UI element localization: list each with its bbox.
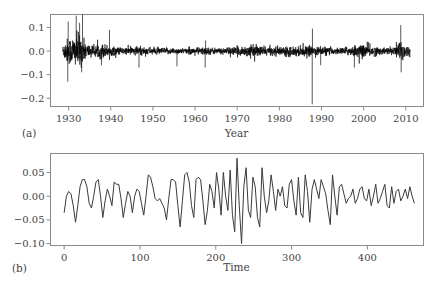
- panel-b-x-axis: 0100200300400: [61, 246, 377, 263]
- panel-b-series-line: [64, 158, 414, 243]
- y-tick-label: −0.1: [20, 69, 44, 80]
- x-tick-label: 1990: [309, 113, 334, 124]
- x-tick-label: 2010: [393, 113, 418, 124]
- panel-a-returns-chart: 0.10.0−0.1−0.2 1930194019501960197019801…: [20, 15, 423, 140]
- panel-b-x-axis-label: Time: [223, 261, 250, 273]
- y-tick-label: −0.10: [14, 238, 45, 249]
- x-tick-label: 1940: [98, 113, 123, 124]
- panel-b-y-axis: 0.050.00−0.05−0.10: [14, 167, 51, 249]
- y-tick-label: 0.1: [29, 22, 45, 33]
- panel-a-y-axis: 0.10.0−0.1−0.2: [20, 22, 50, 104]
- panel-a-x-axis: 193019401950196019701980199020002010: [56, 107, 419, 124]
- y-tick-label: 0.00: [22, 191, 44, 202]
- y-tick-label: −0.05: [14, 214, 45, 225]
- y-tick-label: 0.0: [29, 46, 45, 57]
- panel-b-tag: (b): [12, 262, 27, 274]
- x-tick-label: 100: [130, 252, 149, 263]
- x-tick-label: 1930: [56, 113, 81, 124]
- x-tick-label: 1950: [140, 113, 165, 124]
- panel-a-frame: [51, 15, 424, 107]
- panel-a-series-line: [63, 30, 410, 67]
- y-tick-label: −0.2: [20, 93, 44, 104]
- x-tick-label: 0: [61, 252, 67, 263]
- x-tick-label: 2000: [351, 113, 376, 124]
- x-tick-label: 1970: [224, 113, 249, 124]
- panel-a-tag: (a): [22, 127, 36, 139]
- x-tick-label: 400: [358, 252, 377, 263]
- figure: 0.10.0−0.1−0.2 1930194019501960197019801…: [0, 0, 442, 288]
- x-tick-label: 300: [282, 252, 301, 263]
- panel-a-x-axis-label: Year: [224, 127, 249, 139]
- panel-b-time-series-chart: 0.050.00−0.05−0.10 0100200300400 (b) Tim…: [12, 154, 424, 275]
- x-tick-label: 1960: [182, 113, 207, 124]
- panel-a-spikes: [68, 15, 401, 105]
- x-tick-label: 1980: [267, 113, 292, 124]
- y-tick-label: 0.05: [22, 167, 44, 178]
